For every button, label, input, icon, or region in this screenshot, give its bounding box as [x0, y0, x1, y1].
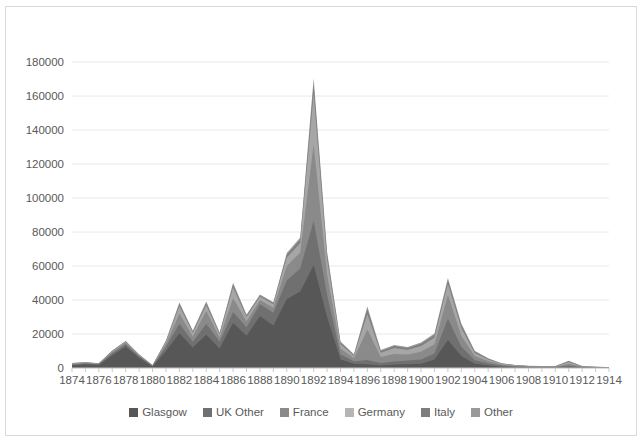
x-tick-label: 1912 — [569, 374, 595, 386]
x-tick-label: 1894 — [328, 374, 354, 386]
x-tick-label: 1914 — [596, 374, 622, 386]
x-tick-label: 1878 — [113, 374, 139, 386]
legend-item-france[interactable]: France — [280, 406, 329, 418]
x-tick-marks — [72, 368, 609, 372]
x-tick-label: 1902 — [435, 374, 461, 386]
x-tick-label: 1898 — [381, 374, 407, 386]
legend-label: Germany — [358, 406, 405, 418]
x-tick-label: 1884 — [193, 374, 219, 386]
x-tick-label: 1910 — [543, 374, 569, 386]
x-tick-label: 1886 — [220, 374, 246, 386]
x-tick-label: 1904 — [462, 374, 488, 386]
gridlines — [72, 62, 609, 368]
y-tick-label: 160000 — [26, 90, 64, 102]
y-tick-label: 80000 — [32, 226, 64, 238]
legend-label: UK Other — [216, 406, 264, 418]
x-tick-label: 1906 — [489, 374, 515, 386]
y-tick-label: 100000 — [26, 192, 64, 204]
y-tick-label: 180000 — [26, 56, 64, 68]
legend-label: Other — [484, 406, 513, 418]
legend-swatch-icon — [471, 408, 480, 417]
x-tick-label: 1880 — [140, 374, 166, 386]
legend-swatch-icon — [280, 408, 289, 417]
y-tick-label: 140000 — [26, 124, 64, 136]
legend-item-other[interactable]: Other — [471, 406, 513, 418]
legend-item-italy[interactable]: Italy — [421, 406, 455, 418]
x-tick-label: 1908 — [516, 374, 542, 386]
x-tick-label: 1876 — [86, 374, 112, 386]
y-tick-label: 60000 — [32, 260, 64, 272]
area-series-other — [72, 78, 609, 368]
x-tick-label: 1890 — [274, 374, 300, 386]
y-tick-label: 120000 — [26, 158, 64, 170]
legend-label: France — [293, 406, 329, 418]
legend-item-germany[interactable]: Germany — [345, 406, 405, 418]
x-tick-label: 1896 — [355, 374, 381, 386]
x-tick-label: 1888 — [247, 374, 273, 386]
legend-item-glasgow[interactable]: Glasgow — [129, 406, 187, 418]
area-series-italy — [72, 85, 609, 368]
chart-legend: GlasgowUK OtherFranceGermanyItalyOther — [0, 402, 642, 422]
y-axis-tick-labels: 0200004000060000800001000001200001400001… — [26, 56, 64, 374]
legend-item-uk-other[interactable]: UK Other — [203, 406, 264, 418]
legend-label: Glasgow — [142, 406, 187, 418]
area-layers — [72, 78, 609, 368]
x-tick-label: 1900 — [408, 374, 434, 386]
area-series-germany — [72, 93, 609, 368]
legend-swatch-icon — [421, 408, 430, 417]
legend-label: Italy — [434, 406, 455, 418]
chart-screenshot: 0200004000060000800001000001200001400001… — [0, 0, 642, 442]
y-tick-label: 0 — [58, 362, 64, 374]
x-tick-label: 1892 — [301, 374, 327, 386]
legend-swatch-icon — [203, 408, 212, 417]
x-tick-label: 1874 — [59, 374, 85, 386]
x-tick-label: 1882 — [167, 374, 193, 386]
legend-swatch-icon — [345, 408, 354, 417]
y-tick-label: 20000 — [32, 328, 64, 340]
x-axis-tick-labels: 1874187618781880188218841886188818901892… — [59, 374, 622, 386]
y-tick-label: 40000 — [32, 294, 64, 306]
stacked-area-chart: 0200004000060000800001000001200001400001… — [0, 0, 642, 442]
legend-swatch-icon — [129, 408, 138, 417]
